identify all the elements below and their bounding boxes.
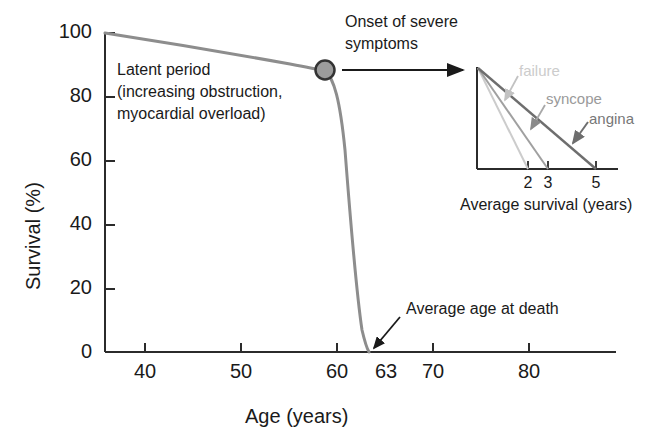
survival-curve [105, 33, 369, 352]
inset-x-axis-title: Average survival (years) [460, 196, 632, 214]
inset-label-failure: failure [519, 62, 560, 79]
inset-x-tick-label-3: 3 [533, 174, 563, 192]
latent-period-line-3: myocardial overload) [117, 104, 266, 124]
x-axis-title: Age (years) [245, 405, 348, 428]
y-tick-label-0: 0 [40, 340, 92, 363]
onset-label-line-1: Onset of severe [345, 12, 458, 32]
y-axis-title: Survival (%) [22, 182, 45, 290]
x-tick-label-80: 80 [509, 360, 549, 383]
x-tick-label-50: 50 [221, 360, 261, 383]
survival-curve-figure: 100 80 60 40 20 0 Survival (%) 40 50 60 … [0, 0, 655, 443]
death-arrow [374, 317, 400, 348]
y-tick-label-80: 80 [40, 84, 92, 107]
average-age-at-death-label: Average age at death [406, 299, 559, 319]
latent-period-line-1: Latent period [117, 60, 210, 80]
inset-arrow-syncope [531, 105, 545, 129]
inset-arrow-angina [573, 122, 588, 143]
inset-label-syncope: syncope [546, 90, 602, 107]
inset-x-tick-label-5: 5 [581, 174, 611, 192]
y-axis-ticks [105, 33, 115, 289]
onset-label-line-2: symptoms [345, 34, 418, 54]
x-axis-ticks [145, 343, 529, 352]
latent-period-line-2: (increasing obstruction, [117, 82, 282, 102]
x-tick-label-40: 40 [125, 360, 165, 383]
onset-marker-dot [316, 61, 335, 80]
x-tick-label-63: 63 [366, 360, 406, 383]
x-tick-label-70: 70 [413, 360, 453, 383]
inset-label-angina: angina [589, 110, 634, 127]
y-tick-label-20: 20 [40, 276, 92, 299]
y-tick-label-100: 100 [40, 20, 92, 43]
inset-line-failure [478, 68, 528, 169]
y-tick-label-60: 60 [40, 148, 92, 171]
inset-x-ticks [528, 161, 596, 169]
y-tick-label-40: 40 [40, 212, 92, 235]
x-tick-label-60: 60 [317, 360, 357, 383]
